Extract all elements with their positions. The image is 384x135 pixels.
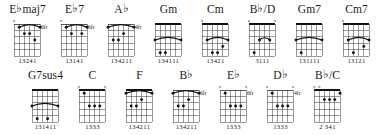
finger-dot: [187, 98, 190, 101]
fingering-numbers: 131111: [299, 57, 320, 65]
chord: B♭6fr134211: [163, 69, 210, 135]
muted-string-marker: x: [341, 18, 344, 23]
finger-dot: [320, 39, 323, 42]
finger-dot: [322, 98, 325, 101]
chord-name: Cm: [207, 3, 224, 16]
muted-string-marker: x: [273, 18, 276, 23]
finger-dot: [93, 105, 96, 108]
finger-dot: [46, 117, 49, 120]
fret-position-label: 6fr: [247, 90, 254, 96]
finger-dot: [346, 39, 349, 42]
finger-dot: [333, 98, 336, 101]
fingering-numbers: 134211: [111, 57, 133, 65]
muted-string-marker: x: [291, 84, 294, 89]
fret-position-label: 6fr: [41, 24, 48, 30]
finger-dot: [17, 26, 20, 29]
flat-symbol: ♭: [282, 67, 288, 81]
finger-dot: [56, 105, 59, 108]
finger-dot: [122, 32, 125, 35]
chord: G7sus4131411: [22, 69, 69, 135]
finger-dot: [328, 98, 331, 101]
fretboard-grid: x: [336, 17, 382, 58]
flat-symbol: ♭: [123, 1, 129, 15]
finger-dot: [64, 26, 67, 29]
fret-position-label: 4fr: [135, 24, 142, 30]
finger-dot: [281, 105, 284, 108]
finger-dot: [234, 105, 237, 108]
fretboard-grid: [166, 83, 212, 124]
muted-string-marker: x: [317, 84, 320, 89]
finger-dot: [239, 105, 242, 108]
fretboard-grid: x: [195, 17, 241, 58]
fretboard-grid: [289, 17, 335, 58]
chord-root: D: [273, 69, 281, 81]
fretboard-grid: xx: [72, 83, 118, 124]
flat-symbol: ♭: [257, 1, 263, 15]
chord-root: E: [65, 3, 72, 15]
chord: E♭xx6fr1333: [210, 69, 257, 135]
chord-diagram: x: [336, 17, 378, 57]
chord: Cmx13421: [192, 3, 239, 68]
finger-dot: [252, 51, 255, 54]
muted-string-marker: x: [200, 18, 203, 23]
fingering-numbers: 1333: [85, 123, 100, 131]
finger-dot: [362, 45, 365, 48]
finger-dot: [176, 105, 179, 108]
finger-dot: [106, 26, 109, 29]
finger-dot: [294, 39, 297, 42]
finger-dot: [111, 39, 114, 42]
chord-name: E♭7: [65, 3, 84, 16]
finger-dot: [140, 98, 143, 101]
chord-root: A: [114, 3, 122, 15]
finger-dot: [367, 39, 370, 42]
finger-dot: [30, 105, 33, 108]
fret-position-label: 4fr: [294, 90, 301, 96]
fretboard-grid: xx: [260, 83, 306, 124]
fingering-numbers: 134211: [129, 123, 151, 131]
finger-dot: [171, 92, 174, 95]
finger-dot: [221, 45, 224, 48]
muted-string-marker: x: [244, 84, 247, 89]
chord-quality: 7: [78, 3, 84, 15]
fingering-numbers: 134211: [176, 123, 198, 131]
barre-arc: [126, 91, 152, 94]
chord: B♭/Cxx2 341: [304, 69, 351, 135]
chord-name: D♭: [273, 69, 288, 82]
barre-arc: [108, 25, 134, 28]
finger-dot: [275, 105, 278, 108]
chord-name: B♭/D: [250, 3, 276, 16]
finger-dot: [226, 39, 229, 42]
flat-symbol: ♭: [323, 67, 329, 81]
finger-dot: [338, 92, 341, 95]
finger-dot: [223, 92, 226, 95]
finger-dot: [257, 39, 260, 42]
chord: E♭7x6fr13141: [51, 3, 98, 68]
fingering-numbers: 2 341: [319, 123, 336, 131]
finger-dot: [28, 32, 31, 35]
fingering-numbers: 1333: [226, 123, 241, 131]
chord: Gm134111: [145, 3, 192, 68]
finger-dot: [181, 105, 184, 108]
chord-diagram: xx: [242, 17, 284, 57]
finger-dot: [299, 51, 302, 54]
chord: E♭maj7x6fr13241: [4, 3, 51, 68]
finger-dot: [33, 39, 36, 42]
fingering-numbers: 3111: [255, 57, 269, 65]
fretboard-grid: x: [7, 17, 53, 58]
chord: A♭4fr134211: [98, 3, 145, 68]
finger-dot: [153, 39, 156, 42]
barre-arc: [32, 103, 58, 106]
chord-quality: maj7: [22, 3, 45, 15]
chord: Gm7131111: [286, 3, 333, 68]
chord-diagram: 6fr: [166, 83, 208, 123]
finger-dot: [80, 32, 83, 35]
finger-dot: [124, 92, 127, 95]
chord-diagram: xx6fr: [213, 83, 255, 123]
fretboard-grid: [101, 17, 147, 58]
chord: Cxx1333: [69, 69, 116, 135]
chord: Cm7x13121: [333, 3, 380, 68]
chord-name: Gm7: [298, 3, 321, 16]
finger-dot: [228, 105, 231, 108]
fingering-numbers: 13121: [347, 57, 365, 65]
finger-dot: [129, 105, 132, 108]
